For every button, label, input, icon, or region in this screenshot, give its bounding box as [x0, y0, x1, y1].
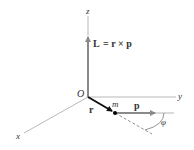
- diagram-canvas: [0, 0, 194, 150]
- p-label: p: [134, 101, 140, 111]
- x-axis: [24, 97, 88, 133]
- z-axis-label: z: [86, 7, 90, 16]
- particle-dot: [113, 111, 117, 115]
- origin-label: O: [77, 89, 84, 99]
- L-label: L: [93, 39, 100, 49]
- y-axis-label: y: [178, 92, 182, 101]
- angular-momentum-diagram: z y x O L = r × p r m p φ: [0, 0, 194, 150]
- L-equation: = r × p: [103, 39, 132, 49]
- r-extension-dashed: [115, 113, 152, 134]
- angle-phi-label: φ: [161, 118, 166, 127]
- particle-label: m: [112, 100, 119, 109]
- x-axis-label: x: [16, 132, 20, 141]
- r-label: r: [89, 105, 93, 115]
